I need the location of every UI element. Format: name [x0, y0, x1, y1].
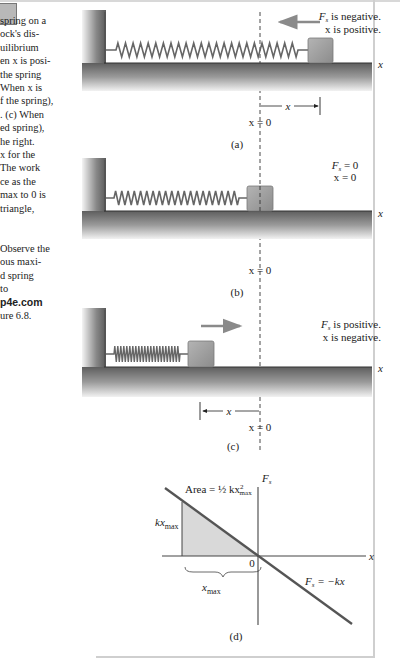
panel-a: Fs is negative. x is positive. x x x = 0…: [82, 10, 383, 151]
axis-label-b: x: [377, 207, 383, 219]
block: [188, 341, 214, 367]
displacement-label-a: x: [285, 100, 291, 112]
block: [308, 38, 333, 63]
panel-label-a: (a): [231, 138, 244, 151]
axis-label-c: x: [377, 362, 383, 374]
panel-d-graph: Fs x 0 Area = ½ kx2max kxmax xmax Fs = −…: [155, 472, 374, 643]
panel-c: Fs is positive. x is negative. x x x = 0…: [82, 308, 383, 453]
wall: [82, 308, 106, 368]
floor: [82, 367, 372, 397]
spring-compressed: [106, 346, 188, 362]
displacement-label-c: x: [226, 405, 232, 417]
y-axis-label: Fs: [261, 472, 272, 486]
spring-stretched: [106, 43, 308, 57]
force-label-c: Fs is positive.: [320, 318, 381, 332]
origin-label-a: x = 0: [249, 116, 272, 128]
panel-label-c: (c): [227, 440, 240, 453]
width-label: xmax: [201, 581, 221, 596]
panel-b: Fs = 0 x = 0 x x = 0 (b): [82, 158, 383, 299]
origin-label-b: x = 0: [249, 264, 272, 276]
x-label-c: x is negative.: [323, 331, 382, 343]
x-axis-label: x: [368, 550, 374, 562]
force-line-label: Fs = −kx: [304, 575, 345, 589]
x-label-b: x = 0: [334, 171, 357, 183]
floor: [82, 63, 372, 91]
origin-label-c: x = 0: [249, 421, 272, 433]
floor: [82, 211, 372, 239]
spring-figure: Fs is negative. x is positive. x x x = 0…: [0, 0, 400, 663]
axis-label-a: x: [377, 58, 383, 70]
panel-label-b: (b): [231, 286, 244, 299]
area-label: Area = ½ kx2max: [185, 483, 252, 497]
x-label-a: x is positive.: [325, 23, 381, 35]
panel-label-d: (d): [230, 630, 243, 643]
wall: [82, 158, 106, 213]
spring-relaxed: [106, 191, 247, 205]
force-label-a: Fs is negative.: [318, 10, 382, 24]
wall: [82, 10, 106, 65]
height-label: kxmax: [155, 516, 179, 531]
origin-label-d: 0: [249, 557, 255, 569]
